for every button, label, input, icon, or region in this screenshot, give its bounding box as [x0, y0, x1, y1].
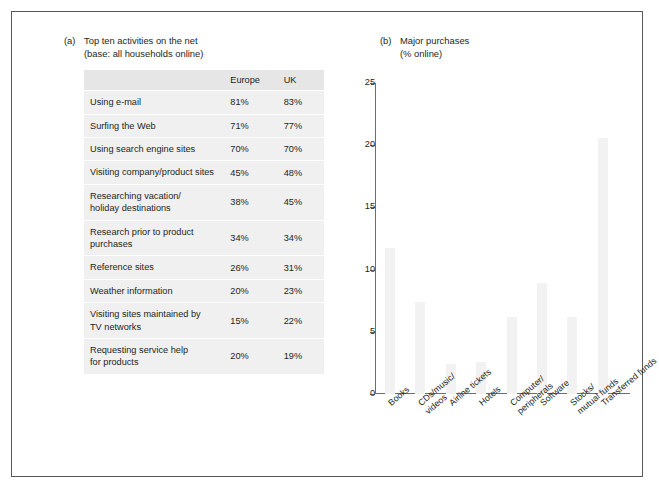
figure-frame: (a) Top ten activities on the net (base:… — [11, 11, 643, 477]
panel-a-title: Top ten activities on the net — [84, 35, 324, 48]
cell-activity: Surfing the Web — [84, 115, 220, 137]
cell-activity: Reference sites — [84, 256, 220, 278]
cell-uk: 70% — [274, 138, 324, 160]
cell-activity: Using e-mail — [84, 91, 220, 113]
cell-uk: 83% — [274, 91, 324, 113]
bar — [415, 302, 425, 394]
table-row: Weather information20%23% — [84, 280, 324, 302]
bar — [385, 248, 395, 394]
table-row: Requesting service helpfor products20%19… — [84, 339, 324, 374]
table-row: Researching vacation/holiday destination… — [84, 185, 324, 220]
column-header-uk: UK — [274, 70, 324, 90]
cell-uk: 77% — [274, 115, 324, 137]
cell-europe: 70% — [220, 138, 273, 160]
cell-europe: 20% — [220, 339, 273, 374]
table-row: Visiting sites maintained byTV networks1… — [84, 303, 324, 338]
table-row: Using e-mail81%83% — [84, 91, 324, 113]
cell-uk: 23% — [274, 280, 324, 302]
cell-activity: Visiting company/product sites — [84, 161, 220, 183]
cell-europe: 45% — [220, 161, 273, 183]
cell-activity: Research prior to productpurchases — [84, 221, 220, 256]
table-row: Research prior to productpurchases34%34% — [84, 221, 324, 256]
table-body: Using e-mail81%83%Surfing the Web71%77%U… — [84, 91, 324, 374]
y-tick-label: 0 — [356, 389, 375, 398]
cell-uk: 45% — [274, 185, 324, 220]
cell-uk: 31% — [274, 256, 324, 278]
panel-a-heading: (a) Top ten activities on the net (base:… — [64, 35, 324, 60]
x-axis-labels: BooksCDs/music/videosAirline ticketsHote… — [376, 396, 646, 476]
cell-europe: 38% — [220, 185, 273, 220]
table-row: Using search engine sites70%70% — [84, 138, 324, 160]
cell-europe: 15% — [220, 303, 273, 338]
cell-europe: 71% — [220, 115, 273, 137]
panel-b-letter: (b) — [380, 35, 400, 48]
cell-europe: 20% — [220, 280, 273, 302]
cell-activity: Requesting service helpfor products — [84, 339, 220, 374]
y-tick-label: 20 — [356, 140, 375, 149]
panel-b-title: Major purchases — [400, 35, 630, 48]
panel-b-subtitle: (% online) — [400, 48, 630, 61]
cell-europe: 34% — [220, 221, 273, 256]
cell-activity: Visiting sites maintained byTV networks — [84, 303, 220, 338]
column-header-activity — [84, 70, 220, 90]
y-tick-label: 25 — [356, 78, 375, 87]
cell-activity: Researching vacation/holiday destination… — [84, 185, 220, 220]
cell-uk: 48% — [274, 161, 324, 183]
y-tick-label: 10 — [356, 265, 375, 274]
table-row: Reference sites26%31% — [84, 256, 324, 278]
panel-a-subtitle: (base: all households online) — [84, 48, 324, 61]
bar — [507, 317, 517, 394]
y-tick-label: 5 — [356, 327, 375, 336]
column-header-europe: Europe — [220, 70, 273, 90]
cell-uk: 22% — [274, 303, 324, 338]
cell-uk: 34% — [274, 221, 324, 256]
panel-b: (b) Major purchases (% online) — [380, 35, 630, 60]
panel-b-heading: (b) Major purchases (% online) — [380, 35, 630, 60]
panel-a: (a) Top ten activities on the net (base:… — [64, 35, 324, 375]
table-row: Visiting company/product sites45%48% — [84, 161, 324, 183]
major-purchases-chart: 0510152025 BooksCDs/music/videosAirline … — [348, 72, 648, 472]
cell-europe: 81% — [220, 91, 273, 113]
cell-activity: Weather information — [84, 280, 220, 302]
table-header-row: Europe UK — [84, 70, 324, 90]
panel-a-letter: (a) — [64, 35, 84, 48]
table-header: Europe UK — [84, 70, 324, 90]
activities-table: Europe UK Using e-mail81%83%Surfing the … — [84, 69, 324, 375]
table-row: Surfing the Web71%77% — [84, 115, 324, 137]
bar — [598, 138, 608, 394]
cell-uk: 19% — [274, 339, 324, 374]
cell-europe: 26% — [220, 256, 273, 278]
cell-activity: Using search engine sites — [84, 138, 220, 160]
plot-bars — [376, 83, 630, 394]
y-tick-label: 15 — [356, 202, 375, 211]
